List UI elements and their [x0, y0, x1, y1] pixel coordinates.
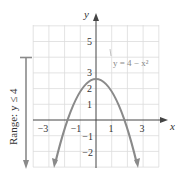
- y-tick-label: 2: [87, 83, 92, 94]
- x-axis-arrow-icon: [160, 117, 168, 123]
- range-arrow-down-icon: [23, 160, 29, 169]
- range-bracket: [20, 58, 32, 163]
- y-tick-label: 1: [87, 99, 92, 110]
- y-tick-label: −1: [82, 131, 93, 142]
- equation-leader-line: [110, 49, 111, 56]
- y-tick-label: 5: [87, 36, 92, 47]
- x-tick-label: −1: [71, 123, 82, 134]
- y-tick-label: 3: [87, 67, 92, 78]
- range-label: Range: y ≤ 4: [7, 88, 19, 145]
- x-tick-label: 3: [140, 123, 145, 134]
- x-tick-label: 1: [109, 123, 114, 134]
- graph: x y −3 −1 1 3 5 3 2 1 −1 −2 y = 4 − x² R…: [0, 0, 180, 174]
- x-axis-label: x: [169, 120, 175, 132]
- y-tick-label: −2: [82, 147, 93, 158]
- y-axis-arrow-icon: [93, 13, 99, 21]
- x-tick-label: −3: [38, 123, 49, 134]
- axes: [33, 13, 168, 168]
- y-axis-label: y: [83, 8, 89, 20]
- equation-label: y = 4 − x²: [113, 58, 149, 68]
